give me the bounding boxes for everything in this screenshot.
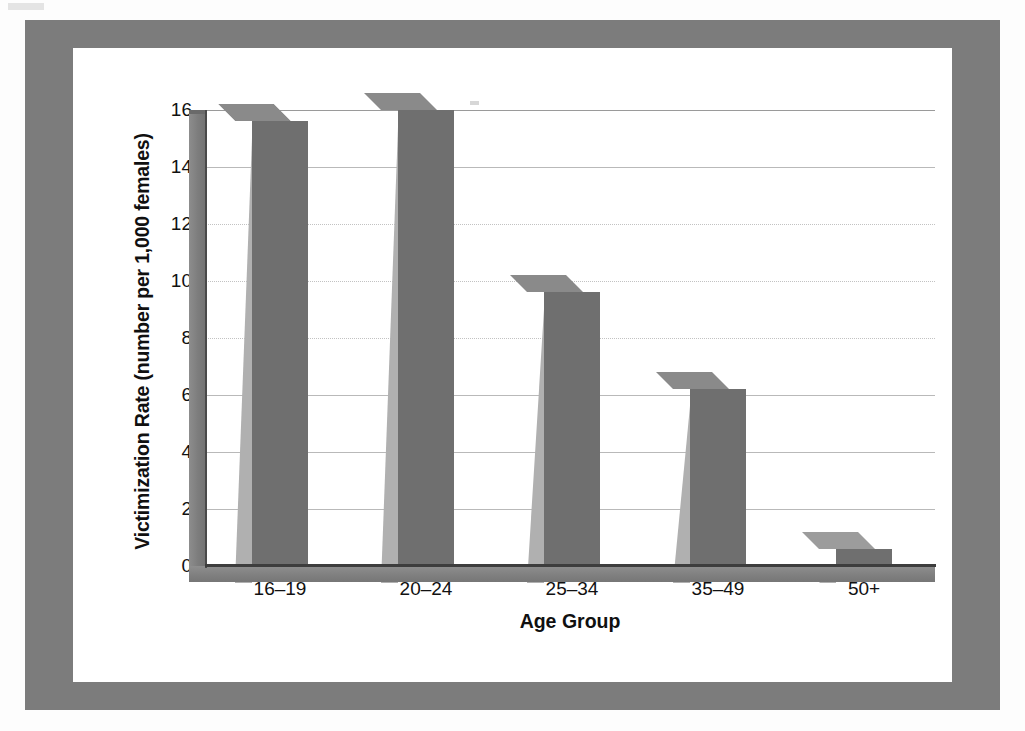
- y-tick-label: 8: [132, 327, 192, 349]
- y-tick-label: 2: [132, 498, 192, 520]
- bar-front-face: [252, 121, 308, 566]
- x-tick-label-25-34: 25–34: [497, 578, 647, 600]
- y-axis-line: [205, 110, 207, 568]
- bar-side-face: [527, 309, 544, 583]
- bar-front-face: [398, 110, 454, 566]
- gridline-16: [205, 110, 935, 111]
- figure-page: Victimization Rate (number per 1,000 fem…: [0, 0, 1025, 731]
- gridline-14: [205, 167, 935, 168]
- bar-top-face: [656, 372, 729, 389]
- y-tick-label: 0: [132, 555, 192, 577]
- bar-chart: Victimization Rate (number per 1,000 fem…: [0, 0, 1025, 731]
- bar-front-face: [690, 389, 746, 566]
- gridline-12: [205, 224, 935, 225]
- x-axis-line: [205, 564, 936, 567]
- x-axis-title: Age Group: [205, 610, 935, 633]
- axis-left-wall: [189, 110, 205, 582]
- x-tick-label-20-24: 20–24: [351, 578, 501, 600]
- bar-16-19[interactable]: [252, 121, 308, 566]
- x-tick-label-50-plus: 50+: [789, 578, 939, 600]
- bar-top-face: [364, 93, 437, 110]
- x-tick-label-35-49: 35–49: [643, 578, 793, 600]
- bar-35-49[interactable]: [690, 389, 746, 566]
- y-tick-label: 10: [132, 270, 192, 292]
- y-tick-label: 6: [132, 384, 192, 406]
- x-tick-label-16-19: 16–19: [205, 578, 355, 600]
- bar-20-24[interactable]: [398, 110, 454, 566]
- bar-front-face: [544, 292, 600, 566]
- bar-side-face: [381, 127, 398, 583]
- y-tick-label: 4: [132, 441, 192, 463]
- bar-side-face: [673, 406, 690, 583]
- y-axis-tick-labels: 16 14 12 10 8 6 4 2 0: [130, 110, 192, 566]
- plot-area: [205, 110, 935, 566]
- bar-side-face: [235, 138, 252, 583]
- y-tick-label: 16: [132, 99, 192, 121]
- bar-top-face: [802, 532, 875, 549]
- bar-25-34[interactable]: [544, 292, 600, 566]
- axis-left-wall-cap: [189, 110, 205, 114]
- y-tick-label: 14: [132, 156, 192, 178]
- scan-artifact-speck: [470, 101, 479, 105]
- y-tick-label: 12: [132, 213, 192, 235]
- bar-top-face: [510, 275, 583, 292]
- bar-top-face: [218, 104, 291, 121]
